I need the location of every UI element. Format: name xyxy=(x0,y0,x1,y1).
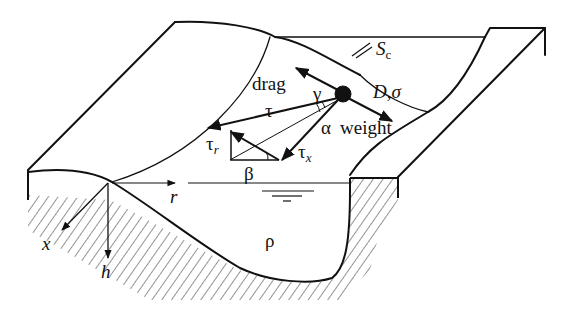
cross-section xyxy=(28,170,398,300)
slope-marker xyxy=(352,43,372,58)
diagram-canvas: Sc D,σ drag γ τ α weight τr τx β r x h ρ xyxy=(0,0,567,313)
bed-surface xyxy=(28,22,545,182)
label-beta: β xyxy=(244,163,254,184)
label-weight: weight xyxy=(340,117,392,138)
label-rho: ρ xyxy=(265,230,274,251)
label-drag: drag xyxy=(252,73,286,94)
label-x-axis: x xyxy=(41,233,51,254)
label-slope: Sc xyxy=(376,38,392,62)
label-grain: D,σ xyxy=(372,81,401,102)
channel-diagram: Sc D,σ drag γ τ α weight τr τx β r x h ρ xyxy=(0,0,567,313)
label-alpha: α xyxy=(321,117,331,138)
label-tau-x: τx xyxy=(298,141,312,165)
label-gamma: γ xyxy=(312,83,321,104)
label-tau-r: τr xyxy=(206,133,220,157)
label-h-axis: h xyxy=(101,261,111,282)
label-r-axis: r xyxy=(170,186,178,207)
label-tau: τ xyxy=(265,100,273,121)
